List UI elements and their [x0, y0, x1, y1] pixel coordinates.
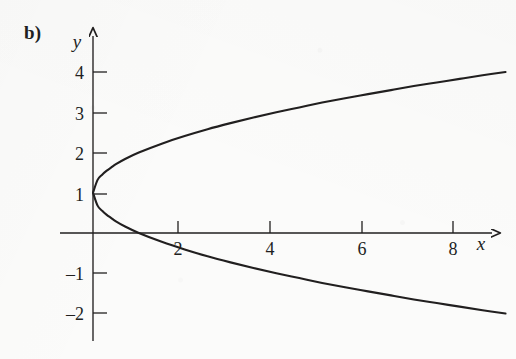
curve-upper-branch — [93, 72, 506, 193]
x-axis-ticks — [178, 221, 453, 233]
curve-group — [93, 72, 506, 314]
x-tick-label-4: 4 — [266, 239, 275, 259]
y-tick-label-neg1: –1 — [65, 264, 84, 284]
axis-lines — [60, 36, 492, 341]
y-axis-label: y — [71, 31, 82, 52]
parabola-plot: 2 4 6 8 4 3 2 1 –1 –2 x y — [0, 0, 516, 359]
x-axis-label: x — [476, 233, 486, 254]
y-tick-labels: 4 3 2 1 –1 –2 — [65, 63, 84, 324]
x-tick-label-8: 8 — [449, 239, 458, 259]
figure-panel: b) 2 4 — [0, 0, 516, 359]
y-tick-label-2: 2 — [75, 144, 84, 164]
y-tick-label-4: 4 — [75, 63, 84, 83]
x-tick-label-6: 6 — [358, 239, 367, 259]
curve-lower-branch — [93, 193, 506, 314]
y-tick-label-3: 3 — [75, 104, 84, 124]
x-tick-labels: 2 4 6 8 — [174, 239, 458, 259]
y-tick-label-1: 1 — [75, 185, 84, 205]
y-tick-label-neg2: –2 — [65, 304, 84, 324]
y-axis-ticks — [93, 72, 107, 313]
